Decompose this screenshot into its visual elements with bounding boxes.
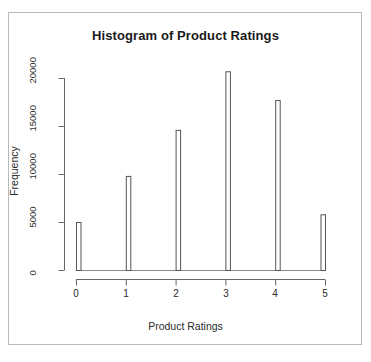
histogram-bar	[321, 215, 326, 271]
histogram-bar	[276, 101, 281, 271]
histogram-bar	[226, 72, 231, 271]
histogram-bars	[77, 72, 326, 271]
histogram-bar	[126, 176, 131, 270]
histogram-bar	[176, 130, 181, 270]
plot-area: Histogram of Product Ratings Product Rat…	[0, 0, 371, 362]
x-axis	[76, 280, 326, 286]
y-axis	[59, 78, 65, 271]
screenshot-root: Histogram of Product Ratings Product Rat…	[0, 0, 371, 362]
histogram-svg	[0, 0, 371, 362]
histogram-bar	[77, 223, 82, 271]
